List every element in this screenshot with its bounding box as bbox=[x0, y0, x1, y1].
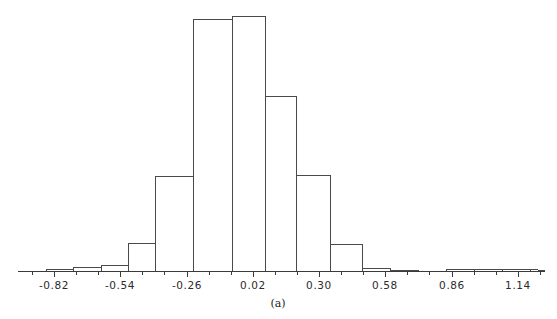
x-axis-tick-label: 1.14 bbox=[505, 279, 531, 291]
x-axis-tick-label: 0.58 bbox=[372, 279, 398, 291]
x-axis-tick-label: 0.02 bbox=[240, 279, 266, 291]
histogram-figure: -0.82-0.54-0.260.020.300.580.861.14 (a) bbox=[0, 0, 557, 319]
x-axis-ticks-group bbox=[32, 272, 540, 277]
x-axis-tick-label: -0.82 bbox=[39, 279, 69, 291]
x-axis-tick-label: -0.26 bbox=[172, 279, 202, 291]
figure-caption: (a) bbox=[270, 297, 285, 310]
x-axis-tick-label: 0.86 bbox=[439, 279, 465, 291]
x-axis-tick-label: 0.30 bbox=[306, 279, 332, 291]
histogram-outline bbox=[18, 16, 545, 271]
x-axis-tick-labels-group: -0.82-0.54-0.260.020.300.580.861.14 bbox=[39, 279, 531, 291]
x-axis-tick-label: -0.54 bbox=[105, 279, 135, 291]
histogram-plot: -0.82-0.54-0.260.020.300.580.861.14 (a) bbox=[0, 0, 557, 319]
histogram-bars-group bbox=[18, 16, 545, 271]
